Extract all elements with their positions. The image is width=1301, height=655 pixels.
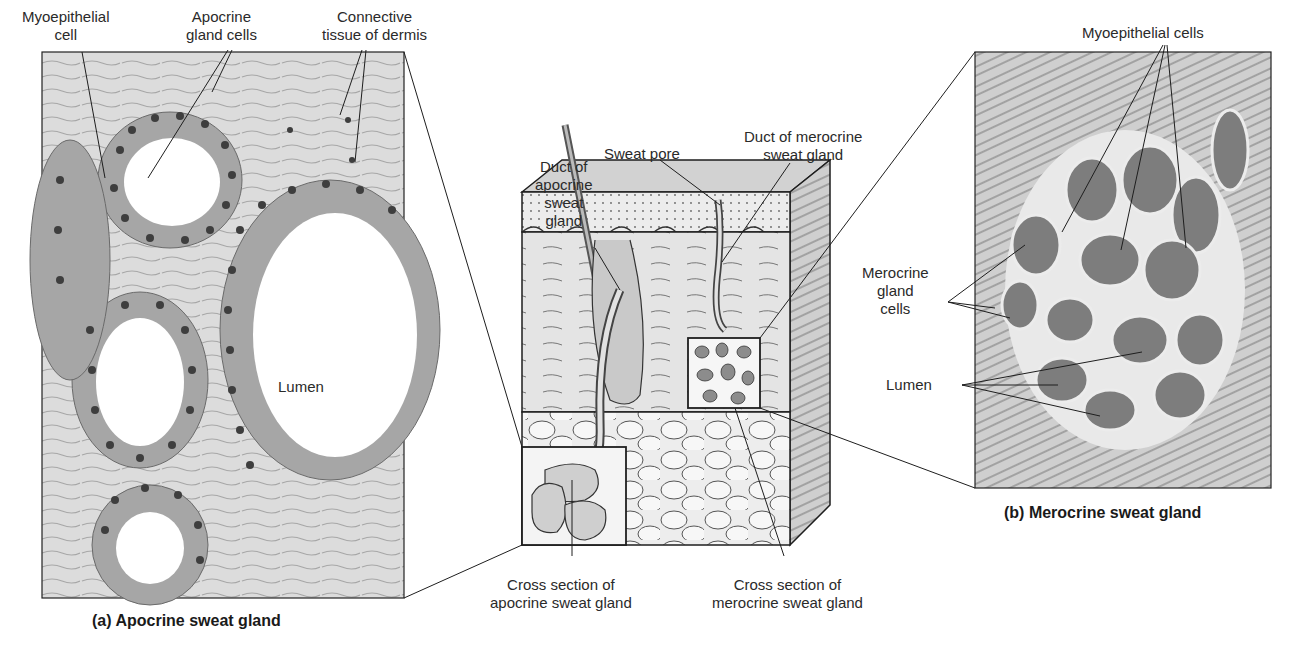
label-line: apocrine sweat gland (490, 594, 632, 612)
label-sweat-pore: Sweat pore (604, 145, 680, 163)
caption-panel-a: (a) Apocrine sweat gland (92, 612, 281, 630)
label-line: gland cells (186, 26, 257, 44)
label-line: Myoepithelial (22, 8, 110, 26)
label-lumen-b: Lumen (886, 376, 932, 394)
label-line: gland (535, 212, 593, 230)
label-myoepithelial-cells: Myoepithelial cells (1082, 24, 1204, 42)
label-line: apocrine (535, 176, 593, 194)
panel-a-micrograph (30, 52, 440, 605)
label-line: Apocrine (186, 8, 257, 26)
label-line: Duct of (535, 158, 593, 176)
label-cross-section-merocrine: Cross section of merocrine sweat gland (712, 576, 863, 612)
label-duct-apocrine: Duct of apocrine sweat gland (535, 158, 593, 230)
label-line: merocrine sweat gland (712, 594, 863, 612)
label-line: Cross section of (712, 576, 863, 594)
label-line: gland (862, 282, 929, 300)
label-line: sweat (535, 194, 593, 212)
label-line: Cross section of (490, 576, 632, 594)
label-line: cells (862, 300, 929, 318)
label-line: Merocrine (862, 264, 929, 282)
label-apocrine-gland-cells: Apocrine gland cells (186, 8, 257, 44)
label-line: tissue of dermis (322, 26, 427, 44)
label-merocrine-gland-cells: Merocrine gland cells (862, 264, 929, 318)
label-lumen-a: Lumen (278, 378, 324, 396)
label-line: sweat gland (744, 146, 862, 164)
caption-panel-b: (b) Merocrine sweat gland (1004, 504, 1201, 522)
label-cross-section-apocrine: Cross section of apocrine sweat gland (490, 576, 632, 612)
label-duct-merocrine: Duct of merocrine sweat gland (744, 128, 862, 164)
panel-b-micrograph (975, 52, 1271, 488)
label-myoepithelial-cell: Myoepithelial cell (22, 8, 110, 44)
label-line: cell (22, 26, 110, 44)
figure-artwork (0, 0, 1301, 655)
label-connective-tissue: Connective tissue of dermis (322, 8, 427, 44)
label-line: Duct of merocrine (744, 128, 862, 146)
label-line: Connective (322, 8, 427, 26)
